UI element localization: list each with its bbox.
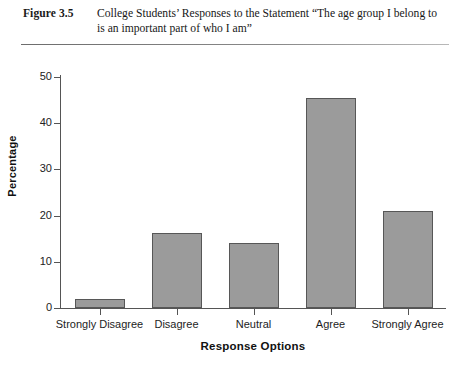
x-axis-tick xyxy=(254,309,255,315)
y-axis-tick-label: 0 xyxy=(6,301,52,313)
y-axis-tick xyxy=(54,77,60,78)
bar xyxy=(75,299,125,308)
y-axis-tick xyxy=(54,123,60,124)
x-axis-tick xyxy=(331,309,332,315)
y-axis-tick xyxy=(54,169,60,170)
y-axis-tick-label: 50 xyxy=(6,70,52,82)
bar-chart: 01020304050 Percentage Strongly Disagree… xyxy=(0,48,459,371)
x-axis-tick xyxy=(177,309,178,315)
figure-caption-block: Figure 3.5 College Students’ Responses t… xyxy=(0,0,459,48)
caption-divider-rule xyxy=(21,44,449,45)
x-axis-title: Response Options xyxy=(60,340,446,352)
figure-number-label: Figure 3.5 xyxy=(23,7,74,19)
y-axis-tick-label: 10 xyxy=(6,255,52,267)
bar xyxy=(383,211,433,308)
bar xyxy=(152,233,202,308)
bar xyxy=(229,243,279,308)
bar xyxy=(306,98,356,308)
y-axis-line xyxy=(60,75,61,309)
x-axis-tick-label: Strongly Agree xyxy=(348,318,459,330)
y-axis-title: Percentage xyxy=(6,116,18,216)
y-axis-tick xyxy=(54,308,60,309)
y-axis-tick xyxy=(54,216,60,217)
y-axis-tick xyxy=(54,262,60,263)
figure-caption-text: College Students’ Responses to the State… xyxy=(97,6,447,36)
x-axis-tick xyxy=(100,309,101,315)
x-axis-tick xyxy=(408,309,409,315)
